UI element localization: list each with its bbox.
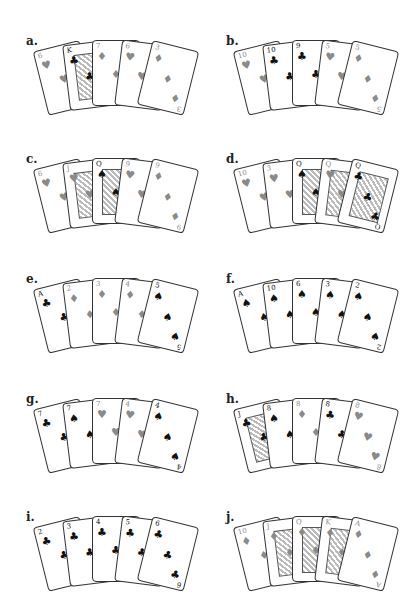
panel-label: j. bbox=[226, 510, 235, 524]
card-rank: Q bbox=[96, 161, 102, 168]
club-icon: ♣ bbox=[68, 531, 79, 543]
spade-icon: ♠ bbox=[152, 290, 164, 303]
card-rank: 9 bbox=[296, 43, 300, 50]
heart-icon: ♥ bbox=[68, 173, 79, 185]
heart-icon: ♥ bbox=[325, 169, 336, 181]
spade-icon: ♠ bbox=[268, 293, 279, 305]
panel-g: g.77♣♣♣77♠♠♠77♥♥♥44♥♥♥44♠♠♠ bbox=[0, 370, 200, 490]
panel-e: e.AA♣♣♣22♦♦♦33♦♦♦44♦♦♦55♠♠♠ bbox=[0, 250, 200, 370]
diamond-icon: ♦ bbox=[297, 527, 307, 538]
diamond-icon: ♦ bbox=[161, 191, 173, 204]
spade-icon: ♠ bbox=[352, 290, 364, 303]
heart-icon: ♥ bbox=[125, 409, 136, 421]
spade-icon: ♠ bbox=[325, 289, 336, 301]
card-hand: 66♥♥♥JJ♥♥♥QQ♠♠♠99♥♥♥99♦♦♦ bbox=[40, 152, 190, 247]
club-icon: ♣ bbox=[268, 55, 279, 67]
heart-icon: ♥ bbox=[125, 51, 136, 63]
card-rank: 7 bbox=[96, 43, 100, 50]
card-rank: 6 bbox=[296, 281, 300, 288]
heart-icon: ♥ bbox=[240, 59, 252, 72]
spade-icon: ♠ bbox=[240, 297, 252, 310]
spade-icon: ♠ bbox=[161, 311, 173, 324]
spade-icon: ♠ bbox=[152, 410, 164, 423]
card-rank: Q bbox=[296, 161, 302, 168]
spade-icon: ♠ bbox=[97, 169, 107, 180]
diamond-icon: ♦ bbox=[240, 535, 252, 548]
card-rank: Q bbox=[296, 519, 302, 526]
heart-icon: ♥ bbox=[240, 177, 252, 190]
card-hand: JJ♣♣♣88♠♠♠88♦♦♦88♣♣♣88♥♥♥ bbox=[240, 392, 390, 487]
heart-icon: ♥ bbox=[268, 173, 279, 185]
heart-icon: ♥ bbox=[40, 59, 52, 72]
card-rank: 7 bbox=[96, 401, 100, 408]
diamond-icon: ♦ bbox=[361, 73, 373, 86]
diamond-icon: ♦ bbox=[152, 52, 164, 65]
card-hand: 1010♥♥♥33♥♥♥QQ♠♠♠QQ♥♥♥QQ♣♣♣ bbox=[240, 152, 390, 247]
heart-icon: ♥ bbox=[125, 169, 136, 181]
panel-i: i.22♣♣♣33♣♣♣44♣♣♣55♣♣♣66♣♣♣ bbox=[0, 488, 200, 608]
club-icon: ♣ bbox=[40, 297, 52, 310]
diamond-icon: ♦ bbox=[97, 51, 107, 62]
spade-icon: ♠ bbox=[161, 431, 173, 444]
diamond-icon: ♦ bbox=[297, 409, 307, 420]
club-icon: ♣ bbox=[97, 527, 107, 538]
panel-label: i. bbox=[26, 510, 35, 524]
card-hand: 1010♦♦♦JJ♦♦♦QQ♦♦♦KK♦♦♦AA♦♦♦ bbox=[240, 510, 390, 605]
club-icon: ♣ bbox=[68, 55, 79, 67]
panel-c: c.66♥♥♥JJ♥♥♥QQ♠♠♠99♥♥♥99♦♦♦ bbox=[0, 130, 200, 250]
panel-label: e. bbox=[26, 272, 38, 286]
diamond-icon: ♦ bbox=[161, 73, 173, 86]
spade-icon: ♠ bbox=[268, 413, 279, 425]
panel-label: a. bbox=[26, 34, 38, 48]
diamond-icon: ♦ bbox=[152, 170, 164, 183]
card-rank: 4 bbox=[96, 519, 100, 526]
spade-icon: ♠ bbox=[361, 311, 373, 324]
panel-h: h.JJ♣♣♣88♠♠♠88♦♦♦88♣♣♣88♥♥♥ bbox=[200, 370, 400, 490]
diamond-icon: ♦ bbox=[325, 527, 336, 539]
panel-f: f.AA♠♠♠1010♠♠♠66♠♠♠33♠♠♠22♠♠♠ bbox=[200, 250, 400, 370]
diamond-icon: ♦ bbox=[97, 289, 107, 300]
heart-icon: ♥ bbox=[361, 431, 373, 444]
diamond-icon: ♦ bbox=[352, 52, 364, 65]
panel-j: j.1010♦♦♦JJ♦♦♦QQ♦♦♦KK♦♦♦AA♦♦♦ bbox=[200, 488, 400, 608]
panel-label: h. bbox=[226, 392, 239, 406]
panel-b: b.1010♥♥♥1010♣♣♣99♣♣♣55♥♥♥55♦♦♦ bbox=[200, 12, 400, 132]
card-hand: 77♣♣♣77♠♠♠77♥♥♥44♥♥♥44♠♠♠ bbox=[40, 392, 190, 487]
club-icon: ♣ bbox=[325, 409, 336, 421]
panel-d: d.1010♥♥♥33♥♥♥QQ♠♠♠QQ♥♥♥QQ♣♣♣ bbox=[200, 130, 400, 250]
diamond-icon: ♦ bbox=[361, 549, 373, 562]
heart-icon: ♥ bbox=[352, 410, 364, 423]
heart-icon: ♥ bbox=[97, 409, 107, 420]
club-icon: ♣ bbox=[297, 51, 307, 62]
diamond-icon: ♦ bbox=[125, 289, 136, 301]
card-hand: 22♣♣♣33♣♣♣44♣♣♣55♣♣♣66♣♣♣ bbox=[40, 510, 190, 605]
club-icon: ♣ bbox=[40, 535, 52, 548]
panel-label: g. bbox=[26, 392, 39, 406]
heart-icon: ♥ bbox=[40, 177, 52, 190]
club-icon: ♣ bbox=[152, 528, 164, 541]
club-icon: ♣ bbox=[161, 549, 173, 562]
panel-label: f. bbox=[226, 272, 235, 286]
club-icon: ♣ bbox=[40, 417, 52, 430]
card-hand: AA♣♣♣22♦♦♦33♦♦♦44♦♦♦55♠♠♠ bbox=[40, 272, 190, 367]
diamond-icon: ♦ bbox=[68, 293, 79, 305]
spade-icon: ♠ bbox=[68, 413, 79, 425]
card-hand: AA♠♠♠1010♠♠♠66♠♠♠33♠♠♠22♠♠♠ bbox=[240, 272, 390, 367]
diamond-icon: ♦ bbox=[268, 531, 279, 543]
club-icon: ♣ bbox=[125, 527, 136, 539]
card-rank: 3 bbox=[96, 281, 100, 288]
diamond-icon: ♦ bbox=[352, 528, 364, 541]
card-hand: 1010♥♥♥1010♣♣♣99♣♣♣55♥♥♥55♦♦♦ bbox=[240, 34, 390, 129]
panel-label: d. bbox=[226, 152, 239, 166]
card-hand: 66♥♥♥KK♣♣♣77♦♦♦66♥♥♥33♦♦♦ bbox=[40, 34, 190, 129]
panel-label: c. bbox=[26, 152, 37, 166]
spade-icon: ♠ bbox=[297, 169, 307, 180]
heart-icon: ♥ bbox=[325, 51, 336, 63]
card-rank: 8 bbox=[296, 401, 300, 408]
spade-icon: ♠ bbox=[297, 289, 307, 300]
panel-a: a.66♥♥♥KK♣♣♣77♦♦♦66♥♥♥33♦♦♦ bbox=[0, 12, 200, 132]
panel-label: b. bbox=[226, 34, 239, 48]
